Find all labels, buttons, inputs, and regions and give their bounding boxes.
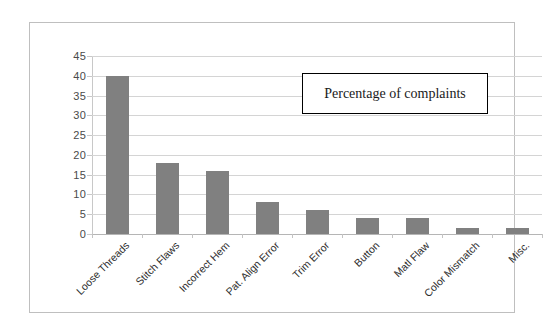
x-axis-label-wrapper: Button [352, 239, 382, 269]
bar [256, 202, 279, 234]
bar [156, 163, 179, 234]
x-axis-label-wrapper: Trim Error [290, 239, 332, 281]
x-axis-label-wrapper: Pat. Align Error [223, 239, 281, 297]
gridline [92, 135, 542, 136]
gridline [92, 234, 542, 235]
gridline [92, 56, 542, 57]
x-axis-category-label: Stitch Flaws [133, 239, 182, 288]
y-axis-tick-mark [87, 194, 92, 195]
x-axis-label-wrapper: Matl Flaw [391, 239, 431, 279]
x-axis-tick-mark [192, 234, 193, 238]
gridline [92, 115, 542, 116]
x-axis-tick-mark [392, 234, 393, 238]
legend-label: Percentage of complaints [324, 86, 466, 102]
x-axis-label-wrapper: Loose Threads [74, 239, 132, 297]
x-axis-category-label: Misc. [506, 239, 532, 265]
y-axis-tick-mark [87, 56, 92, 57]
x-axis-tick-mark [492, 234, 493, 238]
chart-frame: 454035302520151050 Percentage of complai… [29, 22, 515, 313]
x-axis-category-label: Button [352, 239, 382, 269]
x-axis-label-wrapper: Incorrect Hem [176, 239, 231, 294]
bar [456, 228, 479, 234]
y-axis-tick-label: 5 [80, 208, 86, 220]
x-axis-category-label: Pat. Align Error [223, 239, 281, 297]
bar [306, 210, 329, 234]
y-axis-tick-mark [87, 155, 92, 156]
y-axis-tick-label: 0 [80, 228, 86, 240]
bar [206, 171, 229, 234]
y-axis-tick-label: 10 [73, 188, 86, 200]
y-axis-tick-label: 20 [73, 149, 86, 161]
y-axis-tick-label: 30 [73, 109, 86, 121]
y-axis-tick-mark [87, 76, 92, 77]
bar [406, 218, 429, 234]
x-axis-category-label: Loose Threads [74, 239, 132, 297]
x-axis-tick-mark [242, 234, 243, 238]
x-axis-tick-mark [292, 234, 293, 238]
x-axis-label-wrapper: Stitch Flaws [133, 239, 182, 288]
x-axis-label-wrapper: Misc. [506, 239, 532, 265]
x-axis-tick-mark [142, 234, 143, 238]
legend-box: Percentage of complaints [302, 73, 488, 114]
x-axis-category-label: Matl Flaw [391, 239, 431, 279]
bar [356, 218, 379, 234]
y-axis-tick-label: 45 [73, 50, 86, 62]
x-axis-tick-mark [442, 234, 443, 238]
x-axis-tick-mark [542, 234, 543, 238]
y-axis-tick-mark [87, 175, 92, 176]
x-axis-tick-mark [92, 234, 93, 238]
x-axis-tick-mark [342, 234, 343, 238]
y-axis-tick-mark [87, 115, 92, 116]
y-axis-tick-label: 15 [73, 169, 86, 181]
bar [106, 76, 129, 234]
y-axis-tick-label: 40 [73, 70, 86, 82]
y-axis-tick-mark [87, 214, 92, 215]
y-axis-tick-label: 25 [73, 129, 86, 141]
y-axis-tick-labels: 454035302520151050 [30, 56, 86, 234]
y-axis-tick-mark [87, 96, 92, 97]
x-axis-category-label: Trim Error [290, 239, 332, 281]
x-axis-category-label: Incorrect Hem [176, 239, 231, 294]
bar [506, 228, 529, 234]
y-axis-tick-mark [87, 135, 92, 136]
gridline [92, 155, 542, 156]
y-axis-tick-label: 35 [73, 90, 86, 102]
